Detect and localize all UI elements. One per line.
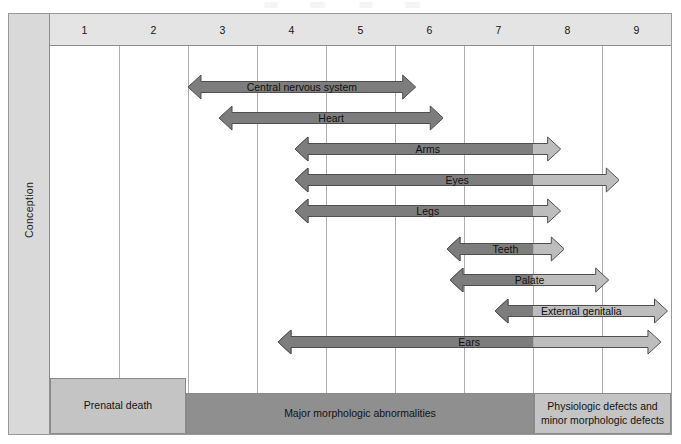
arrow-row: Central nervous system — [50, 74, 671, 100]
arrow-row: Heart — [50, 105, 671, 131]
arrow-row: External genitalia — [50, 298, 671, 324]
arrow-row: Arms — [50, 136, 671, 162]
arrow-central-nervous-system — [188, 74, 416, 100]
band-major-morphologic: Major morphologic abnormalities — [186, 393, 534, 434]
scan-artifact — [252, 2, 442, 8]
conception-band: Conception — [9, 14, 50, 434]
arrow-teeth — [447, 236, 564, 262]
band-prenatal-death: Prenatal death — [50, 378, 186, 434]
arrow-arms — [295, 136, 561, 162]
arrow-legs — [295, 198, 561, 224]
weeks-header: 123456789 — [50, 14, 671, 46]
band-physiologic-label: Physiologic defects and minor morphologi… — [539, 400, 666, 426]
arrow-eyes — [295, 167, 619, 193]
week-label-4: 4 — [257, 14, 326, 45]
week-label-5: 5 — [326, 14, 395, 45]
arrow-palate — [450, 267, 609, 293]
arrow-row: Eyes — [50, 167, 671, 193]
band-physiologic-defects: Physiologic defects and minor morphologi… — [534, 393, 671, 434]
week-label-2: 2 — [119, 14, 188, 45]
arrow-ears — [278, 329, 661, 355]
arrow-row: Palate — [50, 267, 671, 293]
arrow-row: Legs — [50, 198, 671, 224]
teratogen-chart-figure: Conception 123456789 Central nervous sys… — [0, 0, 681, 444]
week-label-6: 6 — [395, 14, 464, 45]
arrow-row: Ears — [50, 329, 671, 355]
week-label-1: 1 — [50, 14, 119, 45]
arrow-heart — [219, 105, 443, 131]
week-label-7: 7 — [464, 14, 533, 45]
week-label-3: 3 — [188, 14, 257, 45]
arrow-external-genitalia — [495, 298, 668, 324]
week-label-8: 8 — [533, 14, 602, 45]
week-label-9: 9 — [602, 14, 671, 45]
conception-label: Conception — [23, 110, 35, 310]
arrow-row: Teeth — [50, 236, 671, 262]
plot-area: Central nervous systemHeartArmsEyesLegsT… — [50, 46, 671, 434]
